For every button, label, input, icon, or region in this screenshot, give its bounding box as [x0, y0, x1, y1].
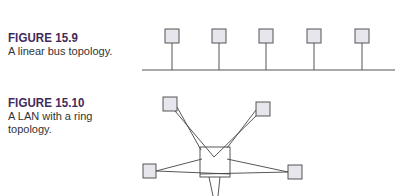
node-box — [307, 29, 321, 43]
node-box — [355, 29, 369, 43]
topology-diagrams — [0, 0, 406, 196]
node-box — [165, 29, 179, 43]
bus-topology-diagram — [142, 29, 395, 70]
node-box — [143, 164, 156, 178]
ring-topology-diagram — [143, 97, 302, 196]
node-box — [212, 29, 226, 43]
node-box — [163, 97, 177, 111]
node-box — [288, 165, 302, 179]
hub-box — [200, 147, 230, 177]
node-box — [256, 102, 270, 116]
node-box — [259, 29, 273, 43]
